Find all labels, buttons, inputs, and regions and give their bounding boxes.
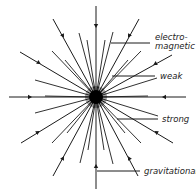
arrowhead-icon [162, 95, 166, 99]
long-force-line [53, 97, 96, 176]
label-gravitational: gravitational [144, 167, 196, 176]
label-electromagnetic-line2: magnetic [155, 42, 195, 51]
long-force-line [20, 52, 96, 97]
label-electromagnetic: electro- magnetic [155, 33, 195, 51]
arrowhead-icon [94, 164, 98, 168]
forces-diagram [0, 0, 196, 193]
center-glow [85, 86, 107, 108]
label-weak: weak [160, 72, 182, 81]
label-strong: strong [162, 115, 189, 124]
arrowhead-icon [28, 95, 32, 99]
arrowhead-icon [94, 24, 98, 28]
